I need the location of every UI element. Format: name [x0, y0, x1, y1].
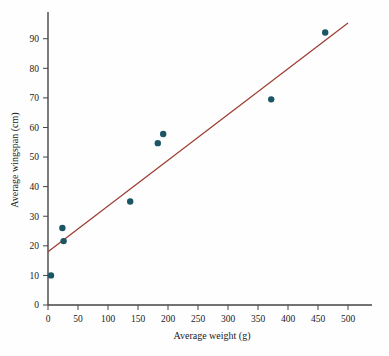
- y-tick-label: 90: [30, 34, 40, 44]
- data-points: [48, 29, 329, 278]
- y-axis-ticks: 0102030405060708090: [30, 34, 49, 310]
- y-tick-label: 0: [34, 300, 39, 310]
- data-point: [127, 198, 133, 204]
- regression-line: [48, 23, 348, 252]
- data-point: [268, 96, 274, 102]
- x-tick-label: 50: [73, 314, 83, 324]
- data-point: [322, 29, 328, 35]
- x-axis-title: Average weight (g): [173, 330, 250, 342]
- y-tick-label: 10: [30, 271, 40, 281]
- x-tick-label: 250: [191, 314, 206, 324]
- x-tick-label: 500: [341, 314, 356, 324]
- trendline-path: [48, 23, 348, 252]
- y-tick-label: 20: [30, 241, 40, 251]
- data-point: [155, 140, 161, 146]
- x-tick-label: 300: [221, 314, 236, 324]
- data-point: [48, 272, 54, 278]
- x-tick-label: 450: [311, 314, 326, 324]
- data-point: [60, 238, 66, 244]
- y-tick-label: 40: [30, 182, 40, 192]
- data-point: [59, 225, 65, 231]
- data-point: [160, 131, 166, 137]
- chart-canvas: 0102030405060708090 05010015020025030035…: [0, 0, 389, 356]
- y-tick-label: 80: [30, 64, 40, 74]
- y-tick-label: 30: [30, 212, 40, 222]
- scatter-plot-figure: 0102030405060708090 05010015020025030035…: [0, 0, 389, 356]
- x-tick-label: 350: [251, 314, 266, 324]
- x-axis-ticks: 050100150200250300350400450500: [46, 305, 356, 324]
- y-tick-label: 50: [30, 152, 40, 162]
- x-tick-label: 100: [101, 314, 116, 324]
- x-tick-label: 200: [161, 314, 176, 324]
- x-tick-label: 0: [46, 314, 51, 324]
- y-tick-label: 60: [30, 123, 40, 133]
- y-axis-title: Average wingspan (cm): [9, 112, 21, 207]
- x-tick-label: 400: [281, 314, 296, 324]
- y-tick-label: 70: [30, 93, 40, 103]
- x-tick-label: 150: [131, 314, 146, 324]
